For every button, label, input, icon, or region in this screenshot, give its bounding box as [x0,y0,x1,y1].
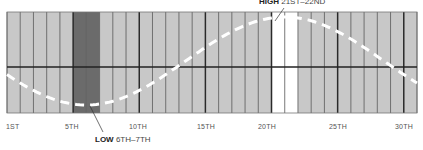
day-column [351,12,364,113]
day-column [205,12,218,113]
tick-label-20th: 20TH [258,123,276,130]
day-column [166,12,179,113]
day-column [60,12,73,113]
day-column [7,12,20,113]
tick-label-25th: 25TH [329,123,347,130]
low-annotation-text: 6TH–7TH [114,135,151,144]
day-column [73,12,86,113]
day-column [152,12,165,113]
day-column [311,12,324,113]
day-column [272,12,285,113]
day-column [245,12,258,113]
day-column [404,12,417,113]
high-annotation: HIGH 21ST–22ND [259,0,325,6]
day-column [391,12,404,113]
tick-label-10th: 10TH [129,123,147,130]
day-column [86,12,99,113]
day-column [338,12,351,113]
day-column [126,12,139,113]
day-column [298,12,311,113]
day-column [139,12,152,113]
day-column [364,12,377,113]
day-column [20,12,33,113]
day-columns [7,12,417,113]
low-annotation: LOW 6TH–7TH [95,135,151,144]
tick-label-1st: 1ST [6,123,19,130]
tick-label-15th: 15TH [197,123,215,130]
day-column [192,12,205,113]
high-annotation-bold: HIGH [259,0,279,6]
high-annotation-text: 21ST–22ND [279,0,325,6]
day-column [258,12,271,113]
day-column [219,12,232,113]
low-annotation-bold: LOW [95,135,114,144]
tick-label-5th: 5TH [65,123,79,130]
day-column [33,12,46,113]
day-column [100,12,113,113]
day-column [285,12,298,113]
tick-label-30th: 30TH [395,123,413,130]
